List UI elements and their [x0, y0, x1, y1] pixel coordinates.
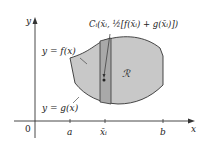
y-axis-label: y [25, 16, 32, 26]
origin-label: 0 [25, 124, 31, 134]
region-r [70, 37, 163, 104]
tick-label-a: a [67, 127, 72, 137]
tick-label-b: b [160, 127, 166, 137]
area-between-curves-diagram: y x 0 a x̄ᵢ b y = f(x) y = g(x) ℛ Cᵢ(x̄ᵢ… [0, 0, 212, 147]
x-axis-label: x [191, 124, 196, 134]
x-axis-arrow [188, 119, 195, 124]
y-axis-arrow [33, 17, 38, 24]
region-label: ℛ [122, 68, 131, 79]
curve-label-f: y = f(x) [41, 46, 76, 56]
centroid-label: Cᵢ(x̄ᵢ, ½[f(x̄ᵢ) + g(x̄ᵢ)]) [89, 19, 178, 29]
tick-label-xi: x̄ᵢ [100, 127, 107, 137]
vertical-strip [100, 38, 111, 104]
curve-label-g: y = g(x) [41, 103, 79, 113]
centroid-point [103, 79, 106, 82]
